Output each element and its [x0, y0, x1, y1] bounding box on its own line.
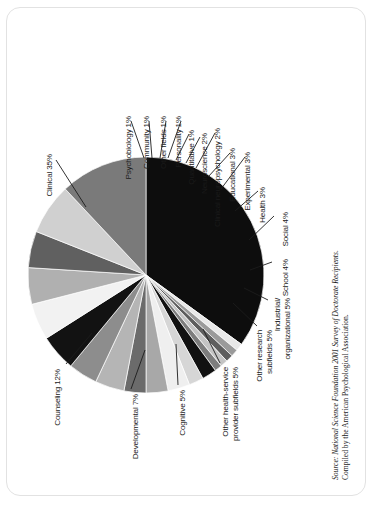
pie-chart-svg: Clinical 35% Psychobiology 1% Community …: [0, 0, 374, 505]
label-counseling: Counseling 12%: [53, 369, 62, 426]
label-other-health-service-line1: Other health-service: [221, 366, 230, 436]
label-psychobiology: Psychobiology 1%: [124, 116, 133, 180]
label-other-research-subfields-line1: Other research: [255, 330, 264, 382]
label-health: Health 3%: [258, 187, 267, 223]
label-quantitative: Quantitative 1%: [187, 130, 196, 185]
label-educational: Educational 3%: [228, 148, 237, 202]
label-other-research-subfields-line2: subfields 5%: [265, 330, 274, 374]
source-line-1: Source: National Science Foundation 2001…: [331, 250, 340, 480]
pie-chart-figure: Clinical 35% Psychobiology 1% Community …: [0, 0, 374, 505]
label-clinical-neuropsychology: Clinical neuropsychology 2%: [213, 128, 222, 227]
source-line-2: Compiled by the American Psychological A…: [341, 314, 350, 480]
label-social: Social 4%: [281, 212, 290, 247]
label-industrial-organizational-line2: organizational 5%: [283, 298, 292, 360]
label-industrial-organizational-line1: Industrial/: [273, 297, 282, 331]
figure-card: Clinical 35% Psychobiology 1% Community …: [0, 0, 374, 505]
label-other-fields: Other fields 1%: [159, 116, 168, 169]
label-experimental: Experimental 3%: [243, 152, 252, 211]
label-personality: Personality 1%: [174, 116, 183, 168]
source-note-group: Source: National Science Foundation 2001…: [331, 250, 350, 480]
label-other-health-service-line2: provider subfields 5%: [231, 367, 240, 441]
label-developmental: Developmental 7%: [131, 394, 140, 459]
label-cognitive: Cognitive 5%: [178, 390, 187, 436]
label-school: School 4%: [281, 259, 290, 296]
label-clinical: Clinical 35%: [45, 154, 54, 197]
label-neuroscience: Neuroscience 2%: [200, 133, 209, 194]
label-community: Community 1%: [142, 116, 151, 169]
